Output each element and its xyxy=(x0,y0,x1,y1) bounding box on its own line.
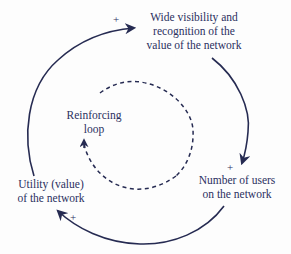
node-users-line-1: Number of users xyxy=(192,173,282,187)
polarity-visibility-to-users: + xyxy=(227,162,233,173)
node-visibility-line-3: value of the network xyxy=(138,38,250,52)
link-utility-to-visibility xyxy=(28,28,134,176)
node-visibility-label: Wide visibility and recognition of the v… xyxy=(138,10,250,52)
reinforcing-loop-line-2: loop xyxy=(62,122,126,136)
node-users-label: Number of users on the network xyxy=(192,173,282,201)
node-visibility-line-1: Wide visibility and xyxy=(138,10,250,24)
reinforcing-loop-line-1: Reinforcing xyxy=(62,108,126,122)
causal-loop-diagram: Wide visibility and recognition of the v… xyxy=(0,0,291,254)
link-users-to-utility xyxy=(58,206,224,244)
node-visibility-line-2: recognition of the xyxy=(138,24,250,38)
link-visibility-to-users xyxy=(212,58,248,163)
polarity-utility-to-visibility: + xyxy=(113,14,119,25)
reinforcing-loop-label: Reinforcing loop xyxy=(62,108,126,136)
node-utility-line-1: Utility (value) xyxy=(8,177,94,191)
node-utility-line-2: of the network xyxy=(8,191,94,205)
node-utility-label: Utility (value) of the network xyxy=(8,177,94,205)
node-users-line-2: on the network xyxy=(192,187,282,201)
polarity-users-to-utility: + xyxy=(70,212,76,223)
